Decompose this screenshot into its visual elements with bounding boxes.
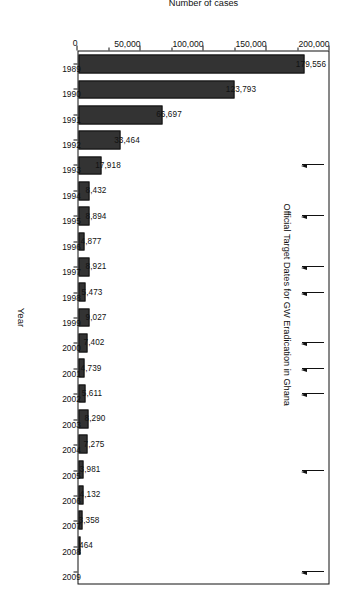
x-axis-tick: 1992 xyxy=(7,126,77,151)
x-axis-tick-label: 2008 xyxy=(62,546,81,556)
x-axis-tick-label: 2004 xyxy=(62,444,81,454)
bar-value-label: 4,132 xyxy=(79,490,100,499)
bar-value-label: 5,611 xyxy=(81,388,101,397)
x-axis-tick-label: 2009 xyxy=(62,571,81,581)
x-axis-tick: 1990 xyxy=(7,75,77,100)
x-axis-tick-label: 1993 xyxy=(62,164,81,174)
target-date-arrow xyxy=(302,266,324,267)
x-axis-tick: 1995 xyxy=(7,203,77,228)
bar-value-label: 33,464 xyxy=(114,135,140,144)
target-date-arrow xyxy=(302,393,324,394)
x-axis-tick-label: 1997 xyxy=(62,266,81,276)
y-axis-ticks: 050,000100,000150,000200,000 xyxy=(77,0,329,50)
bar-cell: 123,793 xyxy=(78,76,328,101)
x-axis-tick-label: 1996 xyxy=(62,241,81,251)
bar-value-label: 4,877 xyxy=(80,236,101,245)
x-axis-tick: 2004 xyxy=(7,431,77,456)
bar xyxy=(78,105,162,124)
x-axis-tick-label: 1994 xyxy=(62,190,81,200)
x-axis-tick-label: 2005 xyxy=(62,470,81,480)
x-axis-tick: 2006 xyxy=(7,482,77,507)
bar-value-label: 8,894 xyxy=(85,211,106,220)
target-date-arrow xyxy=(302,469,324,470)
target-date-arrow xyxy=(302,367,324,368)
x-axis-tick-label: 1998 xyxy=(62,292,81,302)
bar-chart: 179,556123,79366,69733,46417,9188,4328,8… xyxy=(0,0,351,612)
x-axis-tick: 1994 xyxy=(7,177,77,202)
bar-cell: 3,358 xyxy=(78,507,328,532)
x-axis-tick-label: 1999 xyxy=(62,317,81,327)
x-axis-tick: 2009 xyxy=(7,559,77,584)
bar-value-label: 3,981 xyxy=(79,464,100,473)
target-date-arrow xyxy=(302,291,324,292)
bar-cell: 179,556 xyxy=(78,51,328,76)
bar-cell: 7,275 xyxy=(78,431,328,456)
bar-value-label: 8,921 xyxy=(85,262,106,271)
bar-cell: 33,464 xyxy=(78,127,328,152)
x-axis-label: Year xyxy=(16,307,27,326)
bar xyxy=(78,54,304,73)
bar-value-label: 3,358 xyxy=(78,515,99,524)
x-axis-tick-label: 1995 xyxy=(62,215,81,225)
bar-value-label: 9,027 xyxy=(85,312,106,321)
rotated-chart-wrapper: 179,556123,79366,69733,46417,9188,4328,8… xyxy=(0,0,351,612)
x-axis-tick: 2003 xyxy=(7,406,77,431)
target-date-arrow xyxy=(302,342,324,343)
x-axis-tick: 1997 xyxy=(7,253,77,278)
bar-value-label: 8,290 xyxy=(84,414,105,423)
y-axis-tick-label: 200,000 xyxy=(298,38,329,48)
bar-cell: 4,132 xyxy=(78,482,328,507)
x-axis-tick: 1996 xyxy=(7,228,77,253)
y-axis-label-text: Number of cases xyxy=(168,0,237,7)
bar-value-label: 7,275 xyxy=(83,439,104,448)
x-axis-tick: 2008 xyxy=(7,533,77,558)
bar-value-label: 7,402 xyxy=(83,338,104,347)
target-date-arrow xyxy=(302,571,324,572)
x-axis-tick-label: 2006 xyxy=(62,495,81,505)
y-axis-tick-label: 100,000 xyxy=(172,38,203,48)
y-axis-tick-label: 50,000 xyxy=(114,38,140,48)
x-axis-tick: 2001 xyxy=(7,355,77,380)
bar-value-label: 8,432 xyxy=(85,186,106,195)
x-axis-tick: 1991 xyxy=(7,101,77,126)
x-axis-tick: 2007 xyxy=(7,508,77,533)
bar-cell: 464 xyxy=(78,532,328,557)
bar-cell: 8,290 xyxy=(78,406,328,431)
x-axis-tick: 1998 xyxy=(7,279,77,304)
x-axis-tick: 1989 xyxy=(7,50,77,75)
target-date-arrow xyxy=(302,164,324,165)
bar-value-label: 66,697 xyxy=(156,110,182,119)
bar-value-label: 17,918 xyxy=(94,160,120,169)
bar-cell: 3,981 xyxy=(78,456,328,481)
bar-cell: 66,697 xyxy=(78,102,328,127)
y-axis-tick-label: 150,000 xyxy=(235,38,266,48)
x-axis-tick-label: 1990 xyxy=(62,88,81,98)
bar xyxy=(78,80,234,99)
bar-cell: 17,918 xyxy=(78,152,328,177)
chart-screenshot: 179,556123,79366,69733,46417,9188,4328,8… xyxy=(0,0,351,612)
target-date-arrow xyxy=(302,215,324,216)
bar-cell xyxy=(78,558,328,583)
annotation-caption: Official Target Dates for GW Eradication… xyxy=(281,203,291,405)
bar-cell: 8,432 xyxy=(78,178,328,203)
x-axis-tick: 2005 xyxy=(7,457,77,482)
x-axis-tick: 2002 xyxy=(7,381,77,406)
bar-value-label: 123,793 xyxy=(225,84,255,93)
x-axis-tick-label: 1992 xyxy=(62,139,81,149)
x-axis-tick-label: 2001 xyxy=(62,368,81,378)
x-axis-tick-label: 2002 xyxy=(62,393,81,403)
bar-value-label: 179,556 xyxy=(296,59,326,68)
x-axis-tick-label: 2000 xyxy=(62,342,81,352)
x-axis-tick-label: 2003 xyxy=(62,419,81,429)
bar-value-label: 5,473 xyxy=(81,287,102,296)
x-axis-tick: 1993 xyxy=(7,152,77,177)
y-axis-tick-label: 0 xyxy=(72,38,77,48)
x-axis-tick-label: 1989 xyxy=(62,63,81,73)
x-axis-tick-label: 2007 xyxy=(62,520,81,530)
bar-value-label: 4,739 xyxy=(80,363,101,372)
x-axis-tick: 2000 xyxy=(7,330,77,355)
x-axis-tick-label: 1991 xyxy=(62,114,81,124)
